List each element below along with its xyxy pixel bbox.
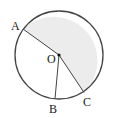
label-C: C (83, 95, 91, 109)
circle-diagram: A O B C (0, 0, 113, 118)
label-O: O (47, 52, 56, 66)
label-B: B (49, 102, 57, 116)
label-A: A (11, 19, 20, 33)
center-point (57, 53, 60, 56)
